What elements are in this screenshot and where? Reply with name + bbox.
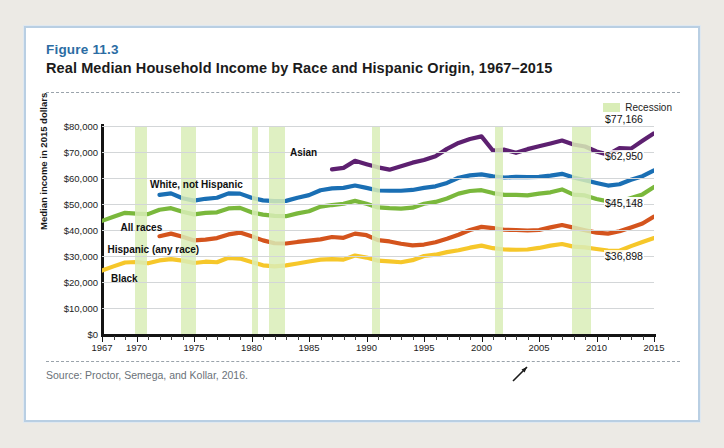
screenshot-page: Figure 11.3 Real Median Household Income… — [0, 0, 724, 448]
y-tick-label: $60,000 — [64, 173, 98, 184]
y-tick-label: $40,000 — [64, 225, 98, 236]
gridline — [102, 230, 654, 231]
y-tick-label: $50,000 — [64, 199, 98, 210]
x-tick — [148, 336, 149, 340]
x-tick — [321, 336, 322, 340]
x-tick — [574, 336, 575, 340]
x-tick — [459, 336, 460, 340]
y-tick-label: $70,000 — [64, 147, 98, 158]
y-tick-label: $10,000 — [64, 303, 98, 314]
pointer-arrow-icon — [511, 363, 537, 383]
series-end-label: $36,898 — [604, 250, 644, 262]
y-tick-label: $80,000 — [64, 121, 98, 132]
series-label: All races — [121, 222, 163, 233]
x-tick — [608, 336, 609, 340]
x-tick-label: 1995 — [413, 342, 434, 353]
x-tick — [551, 336, 552, 340]
gridline — [102, 204, 654, 205]
figure-number: Figure 11.3 — [46, 42, 119, 57]
x-tick — [206, 336, 207, 340]
x-tick-label: 2015 — [643, 342, 664, 353]
series-label: Hispanic (any race) — [108, 244, 200, 255]
x-tick — [585, 336, 586, 340]
y-tick-label: $0 — [87, 329, 98, 340]
x-tick — [298, 336, 299, 340]
figure-title: Real Median Household Income by Race and… — [46, 60, 552, 76]
x-tick — [470, 336, 471, 340]
series-end-label: $45,148 — [604, 197, 644, 209]
chart-area: Median income in 2015 dollars Recession … — [46, 102, 680, 354]
x-tick-label: 1990 — [356, 342, 377, 353]
x-tick-label: 2000 — [471, 342, 492, 353]
x-tick-label: 1985 — [298, 342, 319, 353]
series-end-label: $77,166 — [604, 113, 644, 125]
figure-card: Figure 11.3 Real Median Household Income… — [24, 26, 700, 422]
x-tick — [183, 336, 184, 340]
x-tick — [620, 336, 621, 340]
divider-bottom — [46, 361, 680, 362]
x-tick — [229, 336, 230, 340]
plot-region — [102, 126, 654, 334]
x-tick — [505, 336, 506, 340]
gridline — [102, 282, 654, 283]
x-tick — [378, 336, 379, 340]
x-tick — [344, 336, 345, 340]
series-end-label: $62,950 — [604, 150, 644, 162]
x-tick — [643, 336, 644, 340]
series-label: Black — [111, 273, 138, 284]
x-tick — [171, 336, 172, 340]
x-tick-label: 1975 — [183, 342, 204, 353]
y-axis-labels: $80,000$70,000$60,000$50,000$40,000$30,0… — [46, 102, 98, 354]
x-tick — [263, 336, 264, 340]
x-tick — [528, 336, 529, 340]
x-tick-label: 1970 — [126, 342, 147, 353]
y-tick-label: $20,000 — [64, 277, 98, 288]
x-tick — [516, 336, 517, 340]
gridline — [102, 308, 654, 309]
x-tick — [562, 336, 563, 340]
x-tick — [413, 336, 414, 340]
x-tick-label: 2005 — [528, 342, 549, 353]
series-label: White, not Hispanic — [150, 179, 243, 190]
gridline — [102, 256, 654, 257]
legend: Recession — [603, 102, 672, 113]
y-tick-label: $30,000 — [64, 251, 98, 262]
x-tick — [114, 336, 115, 340]
plot-inner — [102, 126, 654, 334]
x-tick — [390, 336, 391, 340]
source-note: Source: Proctor, Semega, and Kollar, 201… — [46, 369, 248, 381]
x-tick — [217, 336, 218, 340]
x-tick — [493, 336, 494, 340]
x-tick — [401, 336, 402, 340]
x-tick — [125, 336, 126, 340]
x-tick — [447, 336, 448, 340]
x-tick — [240, 336, 241, 340]
x-tick — [631, 336, 632, 340]
x-tick — [332, 336, 333, 340]
legend-label-recession: Recession — [625, 102, 672, 113]
x-tick — [286, 336, 287, 340]
x-tick — [355, 336, 356, 340]
gridline — [102, 152, 654, 153]
x-tick — [160, 336, 161, 340]
x-tick-label: 1980 — [241, 342, 262, 353]
x-tick-label: 2010 — [586, 342, 607, 353]
series-label: Asian — [290, 147, 317, 158]
gridline — [102, 126, 654, 127]
recession-swatch-icon — [603, 103, 620, 112]
x-tick — [275, 336, 276, 340]
x-tick-label: 1967 — [91, 342, 112, 353]
x-tick — [436, 336, 437, 340]
divider-top — [46, 92, 680, 93]
